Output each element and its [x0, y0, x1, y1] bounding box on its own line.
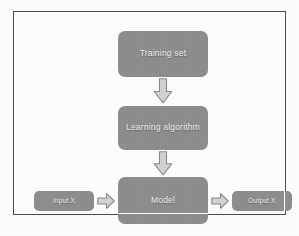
diagram-canvas: Training set Learning algorithm Input X — [0, 0, 299, 236]
node-training-set[interactable]: Training set — [118, 31, 208, 77]
arrow-right-icon — [97, 192, 115, 210]
node-model-label: Model — [147, 196, 179, 206]
arrow-down-icon — [153, 78, 173, 104]
node-model[interactable]: Model — [118, 177, 208, 224]
node-learning-algorithm-label: Learning algorithm — [122, 123, 204, 133]
node-output-x[interactable]: Output X — [232, 191, 292, 211]
node-input-x[interactable]: Input X — [34, 191, 94, 211]
arrow-down-icon — [153, 151, 173, 176]
node-learning-algorithm[interactable]: Learning algorithm — [118, 106, 208, 150]
node-output-x-label: Output X — [244, 197, 279, 204]
arrow-right-icon — [211, 192, 229, 210]
diagram-frame: Training set Learning algorithm Input X — [13, 11, 286, 215]
node-input-x-label: Input X — [49, 197, 79, 204]
node-training-set-label: Training set — [136, 49, 191, 59]
